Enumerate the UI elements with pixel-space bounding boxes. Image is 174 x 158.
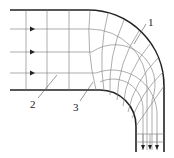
outer-wall bbox=[10, 10, 164, 152]
arrow-down-icon bbox=[155, 145, 159, 150]
arrow-right-icon bbox=[30, 71, 35, 76]
leader-2 bbox=[38, 75, 57, 98]
arrow-right-icon bbox=[30, 27, 35, 32]
label-1: 1 bbox=[148, 16, 154, 28]
label-3: 3 bbox=[73, 101, 79, 113]
arrow-down-icon bbox=[141, 145, 145, 150]
inflow-arrows bbox=[30, 27, 35, 76]
arrow-right-icon bbox=[30, 50, 35, 55]
leader-3 bbox=[80, 82, 93, 101]
arrow-down-icon bbox=[148, 145, 152, 150]
label-2: 2 bbox=[30, 98, 36, 110]
flow-net-diagram: 1 2 3 bbox=[0, 0, 174, 158]
